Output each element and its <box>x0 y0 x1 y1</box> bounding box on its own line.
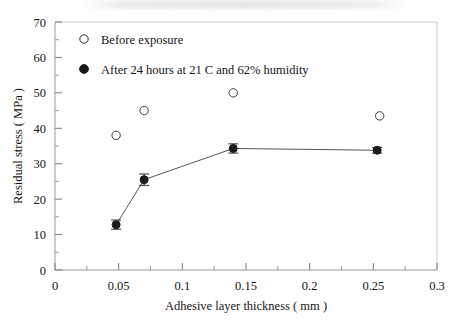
x-axis-tick-label: 0.1 <box>175 279 191 293</box>
y-axis-tick-labels: 010203040506070 <box>34 16 47 278</box>
data-point-open-circle <box>229 89 237 97</box>
x-axis-tick-label: 0.2 <box>302 279 318 293</box>
y-axis-ticks <box>55 22 62 270</box>
legend-label-after-exposure: After 24 hours at 21 C and 62% humidity <box>101 63 309 77</box>
x-axis-ticks <box>55 263 437 270</box>
x-axis-tick-labels: 00.050.10.150.20.250.3 <box>52 279 445 293</box>
y-axis-title: Residual stress ( MPa ) <box>11 88 25 204</box>
chart-figure: 010203040506070 00.050.10.150.20.250.3 R… <box>0 0 456 322</box>
residual-stress-scatter-plot: 010203040506070 00.050.10.150.20.250.3 R… <box>0 0 456 322</box>
x-axis-tick-label: 0.25 <box>362 279 384 293</box>
series-data-markers <box>112 89 384 229</box>
legend-marker-open-circle-icon <box>80 35 88 43</box>
data-point-open-circle <box>376 112 384 120</box>
legend-marker-filled-circle-icon <box>80 65 89 74</box>
x-axis-tick-label: 0 <box>52 279 58 293</box>
series-connector-line <box>116 148 377 224</box>
data-point-filled-circle <box>373 146 381 154</box>
y-axis-tick-label: 0 <box>40 264 46 278</box>
y-axis-tick-label: 30 <box>34 157 47 171</box>
plot-frame <box>55 22 437 270</box>
series-error-bars <box>111 144 382 229</box>
y-axis-tick-label: 50 <box>34 86 47 100</box>
series-line-after-exposure <box>116 148 377 224</box>
data-point-open-circle <box>140 106 148 114</box>
x-axis-tick-label: 0.3 <box>429 279 445 293</box>
y-axis-tick-label: 70 <box>34 16 47 30</box>
y-axis-tick-label: 20 <box>34 193 47 207</box>
x-axis-tick-label: 0.15 <box>235 279 257 293</box>
chart-legend: Before exposure After 24 hours at 21 C a… <box>80 33 310 77</box>
y-axis-tick-label: 10 <box>34 228 47 242</box>
y-axis-tick-label: 60 <box>34 51 47 65</box>
data-point-filled-circle <box>229 144 237 152</box>
x-axis-tick-label: 0.05 <box>108 279 130 293</box>
x-axis-title: Adhesive layer thickness ( mm ) <box>165 299 327 313</box>
y-axis-tick-label: 40 <box>34 122 47 136</box>
data-point-filled-circle <box>112 221 120 229</box>
data-point-open-circle <box>112 131 120 139</box>
data-point-filled-circle <box>140 176 148 184</box>
legend-label-before-exposure: Before exposure <box>101 33 184 47</box>
